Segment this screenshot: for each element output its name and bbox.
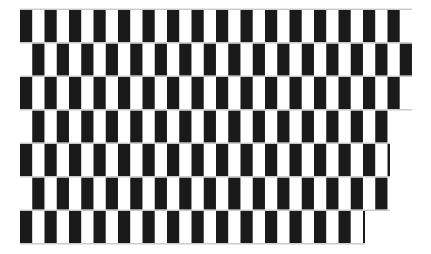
tile-dark	[32, 111, 44, 143]
tile-dark	[290, 144, 302, 176]
tile-dark	[339, 211, 351, 243]
tile-dark	[167, 211, 179, 243]
tile-dark	[339, 10, 351, 42]
tile-dark	[143, 211, 155, 243]
tile-dark	[204, 111, 216, 143]
tile-dark	[45, 144, 57, 176]
tile-dark	[216, 211, 228, 243]
tile-dark	[118, 144, 130, 176]
tile-dark	[265, 10, 277, 42]
tile-row	[32, 178, 387, 210]
tile-dark	[363, 144, 375, 176]
tile-dark	[192, 10, 204, 42]
tile-dark	[241, 10, 253, 42]
tile-dark	[32, 178, 44, 210]
tile-dark	[118, 77, 130, 109]
tile-dark	[241, 144, 253, 176]
tile-dark	[81, 178, 93, 210]
tile-dark	[265, 211, 277, 243]
tile-dark	[155, 44, 167, 76]
tile-dark	[69, 144, 81, 176]
tile-dark	[69, 10, 81, 42]
tile-dark	[192, 211, 204, 243]
mortar-line	[20, 176, 390, 177]
tile-dark	[375, 111, 387, 143]
tile-dark	[167, 144, 179, 176]
tile-dark	[143, 10, 155, 42]
tile-dark	[45, 77, 57, 109]
tile-dark	[253, 44, 265, 76]
cafe-wall-illusion-figure: Cafe Wall Illusion	[0, 0, 431, 254]
mortar-line	[20, 243, 365, 244]
tile-dark	[302, 178, 314, 210]
tile-dark	[143, 77, 155, 109]
tile-dark	[118, 10, 130, 42]
tile-dark	[265, 77, 277, 109]
tile-dark	[204, 44, 216, 76]
tile-dark	[94, 144, 106, 176]
tile-dark	[314, 10, 326, 42]
tile-dark	[314, 77, 326, 109]
cafe-wall-pattern-svg	[0, 0, 431, 254]
tile-dark	[277, 111, 289, 143]
tile-dark	[167, 77, 179, 109]
tile-dark	[106, 111, 118, 143]
tile-dark	[302, 44, 314, 76]
tile-dark	[228, 111, 240, 143]
tile-dark	[130, 178, 142, 210]
tile-dark	[375, 44, 387, 76]
tile-dark	[69, 77, 81, 109]
tile-dark	[216, 144, 228, 176]
tile-dark	[192, 144, 204, 176]
tile-dark	[179, 44, 191, 76]
tile-dark	[326, 178, 338, 210]
tile-dark	[81, 111, 93, 143]
tile-dark	[81, 44, 93, 76]
mortar-line	[20, 76, 412, 77]
tile-dark	[32, 44, 44, 76]
mortar-line-top	[20, 9, 412, 10]
tile-dark	[45, 211, 57, 243]
tile-dark	[57, 178, 69, 210]
mortar-line	[20, 210, 390, 211]
tile-dark	[363, 10, 375, 42]
tile-dark	[228, 178, 240, 210]
mortar-line	[20, 109, 412, 110]
tile-dark	[179, 178, 191, 210]
tile-dark	[351, 111, 363, 143]
tile-dark	[106, 44, 118, 76]
tile-dark	[277, 178, 289, 210]
tile-dark	[179, 111, 191, 143]
tile-dark	[326, 44, 338, 76]
tile-dark	[130, 44, 142, 76]
tile-dark	[363, 211, 365, 243]
tile-dark	[388, 10, 400, 42]
tile-dark	[314, 144, 326, 176]
tile-dark	[94, 77, 106, 109]
tile-dark	[351, 178, 363, 210]
tile-dark	[20, 144, 32, 176]
mortar-line	[20, 42, 412, 43]
tile-dark	[155, 111, 167, 143]
tile-dark	[228, 44, 240, 76]
tile-dark	[388, 144, 391, 176]
tile-dark	[143, 144, 155, 176]
tile-dark	[192, 77, 204, 109]
tile-dark	[302, 111, 314, 143]
tile-dark	[155, 178, 167, 210]
tile-dark	[57, 111, 69, 143]
tile-dark	[400, 44, 412, 76]
tile-dark	[339, 77, 351, 109]
tile-dark	[375, 178, 387, 210]
tile-dark	[57, 44, 69, 76]
tile-dark	[339, 144, 351, 176]
tile-dark	[94, 10, 106, 42]
tile-dark	[216, 10, 228, 42]
tile-dark	[20, 77, 32, 109]
tile-dark	[290, 77, 302, 109]
mortar-line	[20, 143, 390, 144]
tile-dark	[265, 144, 277, 176]
tile-dark	[216, 77, 228, 109]
tile-dark	[314, 211, 326, 243]
tile-dark	[69, 211, 81, 243]
